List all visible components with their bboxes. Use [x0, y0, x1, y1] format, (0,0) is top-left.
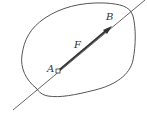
point-a-marker: [56, 69, 60, 73]
diagram-canvas: A B F: [0, 0, 147, 117]
label-b: B: [106, 12, 113, 22]
label-a: A: [47, 64, 54, 74]
diagram-svg: [0, 0, 147, 117]
force-vector: [58, 29, 108, 71]
label-f: F: [74, 40, 81, 50]
